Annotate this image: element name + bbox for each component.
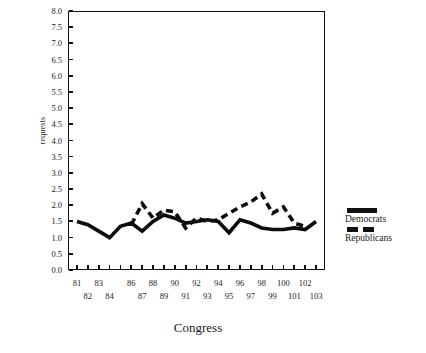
x-axis-tick-label: 100: [272, 279, 294, 288]
x-axis-tick-label: 93: [196, 292, 218, 301]
x-axis-tick-label: 83: [88, 279, 110, 288]
x-axis-tick-label: 103: [305, 292, 327, 301]
x-axis-title: Congress: [128, 320, 268, 336]
legend-item-republicans: Republicans: [345, 227, 425, 243]
y-axis-tick-label: 2.5: [32, 185, 62, 193]
y-axis-tick-label: 8.0: [32, 7, 62, 15]
y-axis-tick-label: 6.0: [32, 72, 62, 80]
legend-swatch-dashed-icon: [347, 227, 377, 232]
y-axis-tick-label: 0.0: [32, 266, 62, 274]
y-axis-tick-label: 6.5: [32, 56, 62, 64]
x-axis-tick-label: 82: [77, 292, 99, 301]
x-axis-tick-label: 84: [99, 292, 121, 301]
x-axis-tick-label: 81: [66, 279, 88, 288]
legend-item-democrats: Democrats: [345, 208, 425, 224]
x-axis-tick-label: 86: [120, 279, 142, 288]
x-axis-tick-label: 96: [229, 279, 251, 288]
y-axis-tick-label: 7.0: [32, 39, 62, 47]
legend-swatch-solid-icon: [347, 208, 377, 213]
x-axis-tick-label: 102: [294, 279, 316, 288]
y-axis-tick-label: 3.0: [32, 169, 62, 177]
plot-lines: [68, 11, 325, 270]
x-axis-tick-label: 91: [175, 292, 197, 301]
x-axis-tick-label: 101: [283, 292, 305, 301]
legend-label-republicans: Republicans: [345, 233, 425, 243]
x-axis-tick-label: 92: [186, 279, 208, 288]
y-axis-tick-label: 2.0: [32, 201, 62, 209]
x-axis-tick-label: 99: [262, 292, 284, 301]
y-axis-tick-label: 1.5: [32, 217, 62, 225]
x-axis-tick-label: 88: [142, 279, 164, 288]
y-axis-tick-label: 5.0: [32, 104, 62, 112]
x-axis-tick-label: 97: [240, 292, 262, 301]
x-axis-tick-label: 90: [164, 279, 186, 288]
x-axis-tick-label: 89: [153, 292, 175, 301]
y-axis-tick-label: 5.5: [32, 88, 62, 96]
x-axis-tick-label: 95: [218, 292, 240, 301]
y-axis-tick-label: 7.5: [32, 23, 62, 31]
legend: Democrats Republicans: [345, 208, 425, 246]
x-axis-tick-label: 98: [251, 279, 273, 288]
y-axis-tick-label: 3.5: [32, 153, 62, 161]
x-axis-tick-label: 94: [207, 279, 229, 288]
series-democrats-line: [77, 215, 316, 238]
x-axis-tick-label: 87: [131, 292, 153, 301]
y-axis-tick-label: 4.0: [32, 137, 62, 145]
legend-label-democrats: Democrats: [345, 214, 425, 224]
y-axis-tick-label: 0.5: [32, 250, 62, 258]
y-axis-tick-label: 4.5: [32, 120, 62, 128]
y-axis-tick-label: 1.0: [32, 234, 62, 242]
chart-figure: requests 8.07.57.06.56.05.55.04.54.03.53…: [0, 0, 426, 353]
